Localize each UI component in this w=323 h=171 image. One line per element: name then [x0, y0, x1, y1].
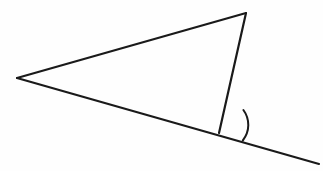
geometry-figure: [0, 0, 323, 171]
geometry-canvas: [0, 0, 323, 171]
figure-background: [0, 0, 323, 171]
